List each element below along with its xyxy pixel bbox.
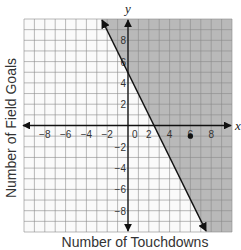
x-tick-label: 8 xyxy=(208,129,214,140)
y-tick-label: 2 xyxy=(120,99,126,110)
y-tick-label: 8 xyxy=(120,35,126,46)
y-axis-label: Number of Field Goals xyxy=(3,53,23,203)
x-axis-label: Number of Touchdowns xyxy=(40,234,230,250)
y-tick-label: −2 xyxy=(115,142,127,153)
y-tick-label: −4 xyxy=(115,163,127,174)
y-tick-label: 4 xyxy=(120,78,126,89)
y-tick-label: −8 xyxy=(115,206,127,217)
x-tick-label: −4 xyxy=(81,129,93,140)
x-tick-label: −8 xyxy=(39,129,51,140)
x-tick-label: 4 xyxy=(167,129,173,140)
x-axis-name: x xyxy=(234,118,241,133)
y-axis-name: y xyxy=(123,1,131,16)
data-point xyxy=(188,134,193,139)
x-tick-label: −2 xyxy=(101,129,113,140)
x-tick-label: 0 xyxy=(132,129,138,140)
y-tick-label: −6 xyxy=(115,184,127,195)
x-tick-label: −6 xyxy=(60,129,72,140)
x-tick-label: 2 xyxy=(146,129,152,140)
